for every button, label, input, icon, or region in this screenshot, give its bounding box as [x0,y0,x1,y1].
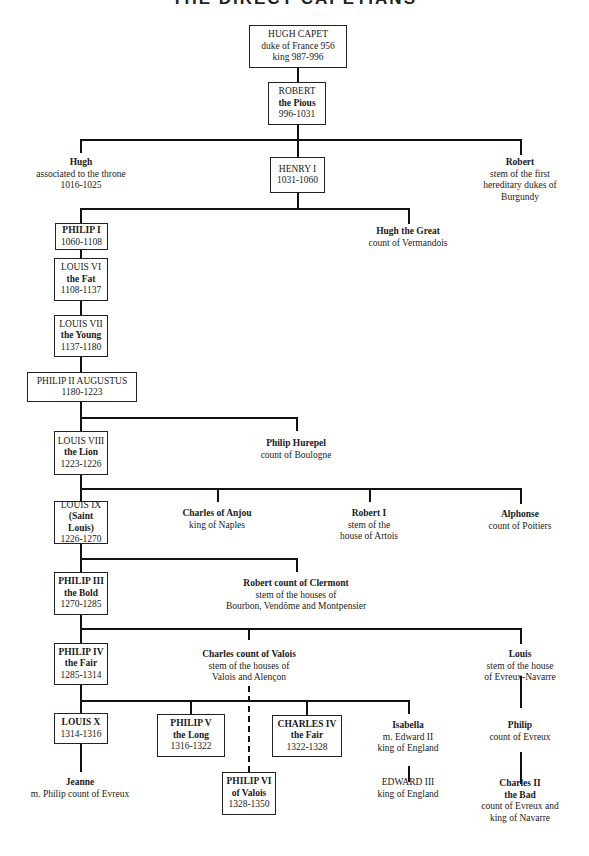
person-epithet: the Young [61,330,102,342]
king-box-louis-ix: LOUIS IX (Saint Louis) 1226-1270 [54,501,108,544]
king-box-louis-x: LOUIS X 1314-1316 [54,713,108,744]
person-reign: 1226-1270 [60,534,101,546]
king-box-philip-vi: PHILIP VI of Valois 1328-1350 [222,772,276,815]
person-description: Bourbon, Vendôme and Montpensier [226,601,366,613]
person-label-hugh: Hugh associated to the throne 1016-1025 [36,157,125,192]
connector-line [80,139,522,141]
king-box-louis-vi: LOUIS VI the Fat 1108-1137 [54,258,108,301]
person-label-robert-i: Robert I stem of the house of Artois [340,508,398,543]
person-name: LOUIS VI [61,262,101,274]
person-description: count of Evreux [489,732,550,744]
connector-line [80,301,82,315]
person-label-charles-anjou: Charles of Anjou king of Naples [182,508,251,531]
person-description: stem of the [340,520,398,532]
person-reign: 1031-1060 [277,175,318,187]
person-label-charles-valois: Charles count of Valois stem of the hous… [202,649,296,684]
connector-line [80,250,82,258]
person-name: EDWARD III [377,777,438,789]
person-description: count of Evreux and [481,801,558,813]
person-description: count of Poitiers [489,521,552,533]
person-name: Hugh the Great [369,226,448,238]
dashed-succession-line [248,686,250,772]
connector-line [80,628,522,630]
person-dates: 1016-1025 [36,180,125,192]
person-label-philip-hurepel: Philip Hurepel count of Boulogne [261,438,332,461]
person-label-hugh-great: Hugh the Great count of Vermandois [369,226,448,249]
king-box-philip-v: PHILIP V the Long 1316-1322 [157,714,225,757]
king-box-robert-pious: ROBERT the Pious 996-1031 [268,82,326,125]
person-reign: 1223-1226 [60,459,101,471]
person-reign: 996-1031 [279,109,315,121]
person-description: associated to the throne [36,169,125,181]
connector-line [408,700,410,714]
person-epithet: the Lion [64,447,98,459]
person-reign: king 987-996 [273,52,324,64]
king-box-philip-i: PHILIP I 1060-1108 [55,223,108,250]
person-description: count of Vermandois [369,238,448,250]
connector-line [408,208,410,224]
connector-line [80,488,522,490]
person-description: stem of the houses of [202,661,296,673]
person-name: Jeanne [31,777,129,789]
person-description: m. Philip count of Evreux [31,789,129,801]
person-name: Robert I [340,508,398,520]
person-reign: 1328-1350 [228,799,269,811]
king-box-henry-i: HENRY I 1031-1060 [270,157,325,193]
person-label-charles-ii: Charles II the Bad count of Evreux and k… [481,778,558,824]
person-title: duke of France 956 [261,41,335,53]
person-label-robert-clermont: Robert count of Clermont stem of the hou… [226,578,366,613]
person-reign: 1270-1285 [60,599,101,611]
person-name: Charles II [481,778,558,790]
connector-line [520,139,522,155]
connector-line [296,558,298,572]
person-name: Philip Hurepel [261,438,332,450]
person-label-philip-evreux: Philip count of Evreux [489,720,550,743]
person-description: of Evreux-Navarre [484,672,555,684]
connector-line [217,488,219,502]
person-label-edward-iii: EDWARD III king of England [377,777,438,800]
connector-line [297,125,299,157]
person-label-alphonse: Alphonse count of Poitiers [489,509,552,532]
person-name: Charles of Anjou [182,508,251,520]
person-reign: 1060-1108 [61,237,102,249]
connector-line [80,744,82,772]
person-name: PHILIP II AUGUSTUS [37,376,127,388]
person-description: king of England [377,743,438,755]
person-description: stem of the houses of [226,590,366,602]
connector-line [297,193,299,209]
person-description: king of Naples [182,520,251,532]
connector-line [80,357,82,372]
person-label-isabella: Isabella m. Edward II king of England [377,720,438,755]
king-box-louis-vii: LOUIS VII the Young 1137-1180 [54,315,108,357]
person-description: hereditary dukes of [483,180,556,192]
person-name: Robert count of Clermont [226,578,366,590]
connector-line [80,208,410,210]
person-name: PHILIP VI [227,776,272,788]
person-name: Charles count of Valois [202,649,296,661]
connector-line [80,685,82,713]
person-description: king of Navarre [481,813,558,825]
king-box-hugh-capet: HUGH CAPET duke of France 956 king 987-9… [249,25,347,68]
connector-line [80,700,410,702]
connector-line [369,488,371,502]
person-reign: 1180-1223 [62,387,103,399]
person-epithet: of Valois [232,788,267,800]
person-epithet: the Pious [278,98,315,110]
person-description: stem of the house [484,661,555,673]
person-name: CHARLES IV [278,719,337,731]
connector-line [296,417,298,431]
person-epithet: (Saint Louis) [55,511,107,534]
person-name: LOUIS IX [61,500,101,512]
person-description: king of England [377,789,438,801]
person-description: Burgundy [483,192,556,204]
person-name: Robert [483,157,556,169]
person-name: PHILIP V [170,718,211,730]
person-reign: 1322-1328 [286,742,327,754]
person-epithet: the Fat [67,274,96,286]
connector-line [80,208,82,223]
king-box-louis-viii: LOUIS VIII the Lion 1223-1226 [54,431,108,475]
person-name: PHILIP I [62,225,100,237]
person-epithet: the Fair [65,658,97,670]
person-reign: 1137-1180 [61,342,101,354]
person-epithet: the Bad [481,790,558,802]
